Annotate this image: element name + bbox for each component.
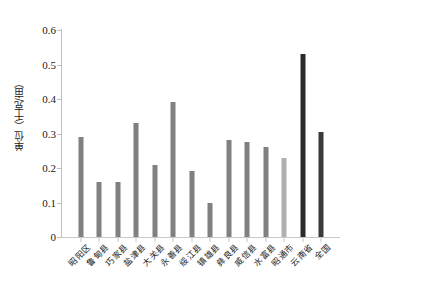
y-axis-tick-mark	[57, 65, 61, 66]
x-axis-tick-mark	[284, 238, 285, 242]
bar	[263, 147, 268, 237]
x-axis-line	[61, 237, 340, 238]
x-axis-tick-mark	[191, 238, 192, 242]
y-axis-tick-mark	[57, 168, 61, 169]
bar	[78, 137, 83, 237]
x-axis-tick-mark	[210, 238, 211, 242]
bar	[208, 203, 213, 238]
y-axis-tick-label: 0	[26, 231, 56, 243]
y-axis-tick-label: 0.2	[26, 162, 56, 174]
bar	[115, 182, 120, 237]
y-axis-tick-label: 0.4	[26, 93, 56, 105]
bar	[300, 54, 305, 237]
x-axis-tick-mark	[80, 238, 81, 242]
bar	[226, 140, 231, 237]
x-axis-tick-mark	[302, 238, 303, 242]
y-axis-tick-mark	[57, 30, 61, 31]
x-axis-tick-mark	[247, 238, 248, 242]
y-axis-tick-mark	[57, 134, 61, 135]
x-axis-tick-mark	[117, 238, 118, 242]
bar	[245, 142, 250, 237]
y-axis-tick-mark	[57, 237, 61, 238]
x-axis-tick-mark	[99, 238, 100, 242]
x-axis-tick-mark	[154, 238, 155, 242]
x-axis-tick-mark	[173, 238, 174, 242]
y-axis-tick-label: 0.5	[26, 59, 56, 71]
bar	[319, 132, 324, 237]
y-axis-tick-label: 0.6	[26, 24, 56, 36]
y-axis-tick-label: 0.3	[26, 128, 56, 140]
x-axis-tick-mark	[228, 238, 229, 242]
y-axis-tick-mark	[57, 99, 61, 100]
x-axis-tick-label: 全国	[314, 243, 333, 262]
y-axis-tick-mark	[57, 203, 61, 204]
bar	[134, 123, 139, 237]
bar	[282, 158, 287, 237]
bar	[97, 182, 102, 237]
y-axis-tick-label: 0.1	[26, 197, 56, 209]
bar	[171, 102, 176, 237]
bar	[152, 165, 157, 237]
x-axis-tick-mark	[136, 238, 137, 242]
bar	[189, 171, 194, 237]
plot-area	[62, 30, 340, 237]
x-axis-tick-mark	[265, 238, 266, 242]
x-axis-tick-mark	[321, 238, 322, 242]
bar-chart: 单位（千克/亩） 0.60.50.40.30.20.10 昭阳区鲁甸县巧家县盐津…	[0, 0, 440, 293]
y-axis-tick-labels: 0.60.50.40.30.20.10	[24, 0, 56, 293]
